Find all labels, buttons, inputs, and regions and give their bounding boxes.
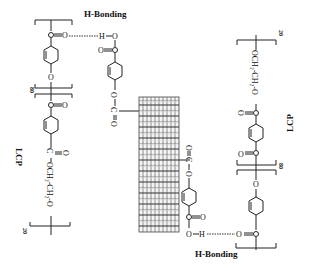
right-lcp-label: LCP <box>285 113 295 132</box>
right-lcp-chain: 20 OCH₂-CH₂-O O O 80 O O LCP <box>236 30 295 250</box>
left-ether-o: O <box>48 73 54 82</box>
right-repeat-20: 20 <box>278 30 284 36</box>
left-top-bracket <box>35 20 72 25</box>
left-ethylene-glycol: OCH₂-CH₂-O <box>45 162 54 207</box>
left-repeat-20: 20 <box>22 228 28 234</box>
bottom-graft-ester-c: C <box>184 157 193 162</box>
left-ester-c: C <box>45 148 54 153</box>
bottom-graft: O C O O O H <box>179 145 206 239</box>
right-ethylene-glycol: OCH₂-CH₂-O <box>250 50 259 95</box>
top-graft-carbonyl-o: O <box>98 46 104 55</box>
bottom-h-atom: H <box>199 230 205 239</box>
bottom-graft-ester-o: O <box>184 171 193 177</box>
bottom-graft-ester-carbonyl-o: O <box>184 145 193 151</box>
left-lcp-label: LCP <box>14 148 24 167</box>
left-repeat-80: 80 <box>29 87 35 93</box>
left-carbonyl-o: O <box>62 31 68 40</box>
left-inner-bracket-a <box>35 84 72 88</box>
left-ester-carbonyl-o: O <box>61 150 70 156</box>
right-terminal-carbonyl-o: O <box>236 230 242 239</box>
top-graft: O O C O <box>98 40 140 127</box>
left-inner-bracket-b <box>35 94 72 98</box>
right-repeat-80: 80 <box>278 163 284 169</box>
h-bonding-label-top: H-Bonding <box>84 9 127 19</box>
bottom-hydroxyl-o: O <box>186 230 192 239</box>
right-ester-carbonyl-o: O <box>236 110 245 116</box>
left-bottom-bracket <box>30 222 70 226</box>
top-graft-ester-c: C <box>109 107 118 112</box>
top-hydroxyl-o: O <box>112 32 118 41</box>
top-graft-ester-carbonyl-o: O <box>109 121 118 127</box>
lcp-cnt-diagram: O O 80 O C O OCH₂-CH₂-O 20 LCP <box>0 0 311 271</box>
top-h-atom: H <box>99 32 105 41</box>
top-h-bond: H-Bonding H O <box>69 9 127 41</box>
right-carbonyl-o: O <box>238 150 244 159</box>
bottom-graft-carbonyl-o: O <box>200 213 206 222</box>
left-lcp-chain: O O 80 O C O OCH₂-CH₂-O 20 LCP <box>14 20 72 235</box>
top-graft-ester-o: O <box>109 92 118 98</box>
h-bonding-label-bottom: H-Bonding <box>195 249 238 259</box>
right-ether-o: O <box>253 180 259 189</box>
carbon-nanotube <box>139 97 179 232</box>
left-carbonyl-o-2: O <box>62 101 68 110</box>
